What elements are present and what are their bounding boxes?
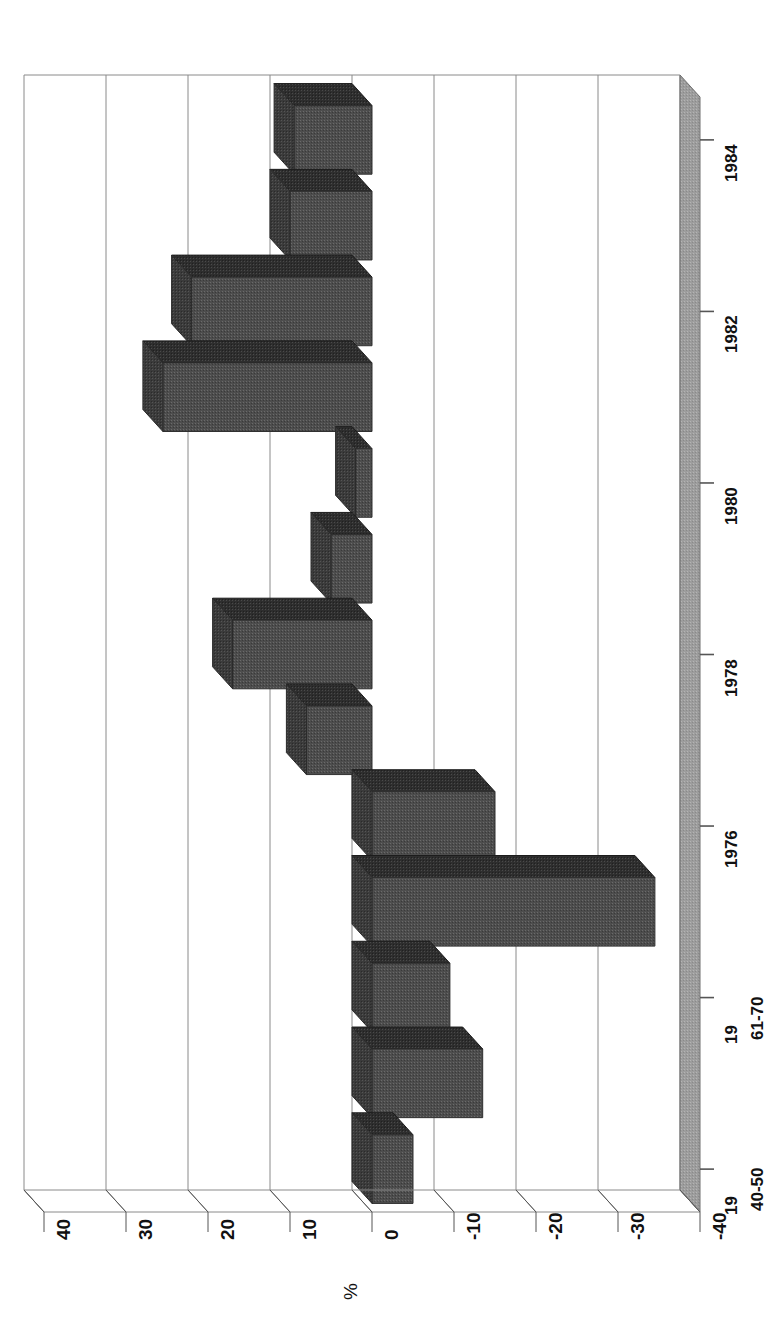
value-tick-label: -10 <box>463 1213 485 1240</box>
value-tick-label: 30 <box>135 1219 157 1240</box>
value-tick-label: 0 <box>381 1229 403 1240</box>
chart-canvas <box>0 0 781 1335</box>
chart-figure: 403020100-10-20-30-40 198419821980197819… <box>0 0 781 1335</box>
category-tick-label: 40-50 <box>748 1168 768 1211</box>
category-tick-label-prefix: 19 <box>722 1025 742 1044</box>
category-tick-label: 1982 <box>722 316 742 354</box>
category-tick-label: 1978 <box>722 659 742 697</box>
value-tick-label: 20 <box>217 1219 239 1240</box>
bar-1980 <box>336 427 372 518</box>
bar-1975 <box>352 856 655 947</box>
category-tick-label: 61-70 <box>748 996 768 1039</box>
floor-panel <box>680 75 700 1212</box>
plot-area: 403020100-10-20-30-40 198419821980197819… <box>0 0 781 1335</box>
bar-1982 <box>172 255 372 346</box>
bar-19-51-60 <box>352 1027 483 1118</box>
category-tick-label-prefix: 19 <box>722 1196 742 1215</box>
bar-19-61-70 <box>352 941 450 1032</box>
value-tick-label: -20 <box>545 1213 567 1240</box>
bar-1978 <box>213 598 372 689</box>
value-tick-label: -30 <box>627 1213 649 1240</box>
category-tick-label: 1984 <box>722 144 742 182</box>
bars-group <box>143 84 655 1204</box>
value-tick-label: 40 <box>53 1219 75 1240</box>
bar-1983 <box>270 169 372 260</box>
value-tick-label: -40 <box>709 1213 731 1240</box>
category-tick-label: 1976 <box>722 830 742 868</box>
value-axis-title: % <box>340 1283 362 1300</box>
bar-1984 <box>274 84 372 175</box>
value-tick-label: 10 <box>299 1219 321 1240</box>
bar-1981 <box>143 341 372 432</box>
bar-1979 <box>311 512 372 603</box>
category-tick-label: 1980 <box>722 487 742 525</box>
bar-1977 <box>286 684 372 775</box>
bar-1976 <box>352 770 495 861</box>
